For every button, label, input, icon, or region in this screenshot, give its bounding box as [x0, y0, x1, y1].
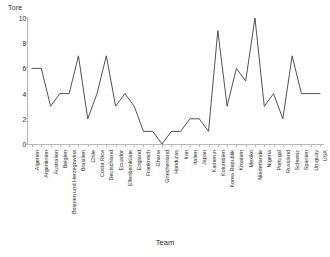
x-tick-mark [153, 144, 154, 147]
x-tick-mark [106, 144, 107, 147]
x-tick-label: Costa Rica [99, 150, 105, 177]
x-tick-label: Kolumbien [220, 150, 226, 176]
y-tick-label: 10 [19, 15, 28, 22]
x-tick-mark [51, 144, 52, 147]
line-chart: Tore 0246810 AlgerienArgentinienAustrali… [0, 0, 330, 257]
x-tick-label: Chile [90, 150, 96, 163]
x-tick-mark [255, 144, 256, 147]
x-tick-label: Kamerun [211, 150, 217, 172]
x-tick-label: Australien [53, 150, 59, 174]
x-tick-label: Korea Republik [229, 150, 235, 188]
y-axis-label: Tore [8, 4, 22, 11]
x-tick-label: Uruguay [313, 150, 319, 171]
x-tick-mark [227, 144, 228, 147]
x-tick-label: Honduras [173, 150, 179, 174]
x-tick-label: Elfenbeinküste [127, 150, 133, 186]
x-axis-line [27, 144, 324, 145]
x-tick-label: Portugal [276, 150, 282, 170]
x-tick-label: Frankreich [145, 150, 151, 176]
x-tick-label: Bosnien und Herzegowina [71, 150, 77, 214]
x-tick-label: Nigeria [266, 150, 272, 167]
x-tick-label: Japan [201, 150, 207, 165]
x-tick-label: Russland [285, 150, 291, 173]
plot-area: 0246810 [28, 18, 324, 144]
x-tick-mark [41, 144, 42, 147]
x-tick-label: Schweiz [294, 150, 300, 170]
x-tick-mark [116, 144, 117, 147]
x-tick-mark [292, 144, 293, 147]
x-tick-mark [88, 144, 89, 147]
series-line-tore [28, 18, 324, 144]
x-tick-mark [162, 144, 163, 147]
x-tick-label: Griechenland [164, 150, 170, 183]
x-tick-mark [199, 144, 200, 147]
x-tick-label: Italien [192, 150, 198, 165]
x-tick-mark [134, 144, 135, 147]
x-tick-label: Mexiko [248, 150, 254, 167]
x-tick-label: Kroatien [238, 150, 244, 170]
x-tick-mark [320, 144, 321, 147]
x-tick-mark [181, 144, 182, 147]
x-tick-mark [78, 144, 79, 147]
x-tick-mark [283, 144, 284, 147]
x-tick-mark [209, 144, 210, 147]
x-tick-label: Brasilien [80, 150, 86, 171]
x-tick-mark [236, 144, 237, 147]
x-tick-label: Ecuador [118, 150, 124, 170]
x-tick-mark [97, 144, 98, 147]
x-tick-mark [60, 144, 61, 147]
x-tick-label: Spanien [303, 150, 309, 170]
x-tick-label: Niederlande [257, 150, 263, 180]
x-tick-mark [143, 144, 144, 147]
x-tick-mark [218, 144, 219, 147]
x-tick-mark [69, 144, 70, 147]
x-tick-mark [311, 144, 312, 147]
x-tick-label: Belgien [62, 150, 68, 168]
x-tick-mark [190, 144, 191, 147]
x-tick-mark [246, 144, 247, 147]
x-tick-label: Argentinien [43, 150, 49, 178]
x-tick-mark [301, 144, 302, 147]
x-axis-label: Team [0, 238, 330, 247]
x-tick-label: Algerien [34, 150, 40, 170]
x-tick-label: England [136, 150, 142, 170]
x-tick-mark [125, 144, 126, 147]
x-tick-label: Deutschland [108, 150, 114, 181]
x-tick-mark [274, 144, 275, 147]
x-tick-mark [171, 144, 172, 147]
x-tick-mark [264, 144, 265, 147]
x-tick-label: Ghana [155, 150, 161, 166]
x-tick-label: Iran [183, 150, 189, 160]
x-tick-mark [32, 144, 33, 147]
x-tick-label: USA [322, 150, 328, 161]
